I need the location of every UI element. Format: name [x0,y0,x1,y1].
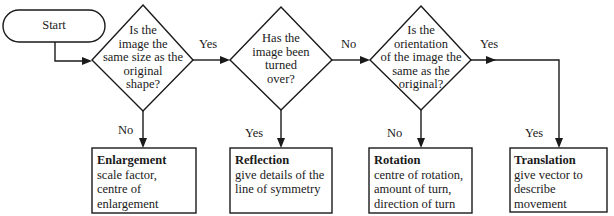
decision-text-line: Has the [236,32,326,46]
outcome-translation: Translation give vector to describe move… [514,153,610,211]
outcome-detail: scale factor, [97,168,195,183]
edge-label-d2-no: No [341,37,356,52]
decision-text-line: image the [98,38,188,52]
outcome-rotation: Rotation centre of rotation, amount of t… [374,153,472,211]
decision-text-line: image been [236,46,326,60]
arrowhead-icon [220,56,230,64]
decision-text-line: original [98,65,188,79]
outcome-detail: give vector to [514,168,610,183]
outcome-detail: describe movement [514,182,610,211]
arrowhead-icon [486,56,496,64]
outcome-detail: give details of the [235,168,333,183]
outcome-title: Enlargement [97,153,195,168]
decision-text-line: original? [373,78,469,92]
decision-text-line: of the image the [373,51,469,65]
decision-text-size: Is the image the same size as the origin… [98,24,188,92]
edge-label-d2-yes: Yes [245,126,263,141]
edge-label-d1-no: No [118,123,133,138]
decision-text-line: orientation [373,38,469,52]
edge-label-d3-no: No [387,126,402,141]
decision-text-line: same as the [373,65,469,79]
outcome-detail: centre of [97,182,195,197]
arrowhead-icon [417,138,425,148]
outcome-detail: enlargement [97,197,195,212]
outcome-title: Reflection [235,153,333,168]
decision-text-line: turned [236,59,326,73]
decision-text-line: same size as the [98,51,188,65]
arrowhead-icon [555,138,563,148]
outcome-detail: amount of turn, [374,182,472,197]
decision-text-line: shape? [98,78,188,92]
outcome-title: Rotation [374,153,472,168]
decision-text-orientation: Is the orientation of the image the same… [373,24,469,92]
outcome-detail: direction of turn [374,197,472,212]
decision-text-line: Is the [98,24,188,38]
outcome-reflection: Reflection give details of the line of s… [235,153,333,197]
start-to-decision1-connector [55,42,86,61]
arrowhead-icon [82,57,92,65]
outcome-detail: line of symmetry [235,182,333,197]
arrowhead-icon [360,56,370,64]
outcome-enlargement: Enlargement scale factor, centre of enla… [97,153,195,211]
decision3-yes-connector [471,60,559,142]
start-label: Start [3,19,105,33]
arrowhead-icon [139,138,147,148]
arrowhead-icon [277,138,285,148]
edge-label-translation-yes: Yes [525,126,543,141]
decision-text-line: Is the [373,24,469,38]
outcome-detail: centre of rotation, [374,168,472,183]
edge-label-d1-yes: Yes [199,37,217,52]
decision-text-line: over? [236,73,326,87]
outcome-title: Translation [514,153,610,168]
edge-label-d3-yes: Yes [480,37,498,52]
decision-text-turned-over: Has the image been turned over? [236,32,326,86]
